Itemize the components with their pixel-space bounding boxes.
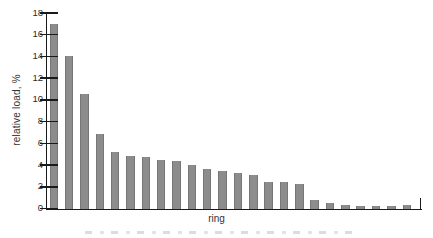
bar	[264, 182, 273, 208]
y-axis-title: relative load, %	[11, 74, 22, 146]
bar	[372, 206, 381, 209]
x-axis-title: ring	[0, 213, 433, 224]
x-axis-end-cap	[420, 198, 422, 209]
bar	[111, 152, 120, 208]
bar	[387, 206, 396, 209]
bar	[65, 56, 74, 208]
figure-canvas: relative load, % 024681012141618 ring	[0, 0, 433, 238]
bar	[280, 182, 289, 208]
y-axis-tick	[40, 12, 58, 14]
x-axis-line	[46, 209, 422, 211]
bar	[341, 205, 350, 209]
y-axis-tick	[40, 34, 58, 36]
y-axis-tick	[40, 121, 58, 123]
bar	[142, 157, 151, 208]
bar	[188, 165, 197, 208]
bar	[126, 156, 135, 208]
bar	[157, 160, 166, 209]
bar	[96, 134, 105, 209]
chart-area	[47, 13, 421, 209]
y-axis-tick	[40, 56, 58, 58]
y-axis-line	[46, 13, 48, 210]
bar	[295, 184, 304, 209]
bar	[50, 24, 59, 209]
bar	[326, 203, 335, 209]
y-axis-tick	[40, 186, 58, 188]
y-axis-tick	[40, 164, 58, 166]
bar	[218, 171, 227, 209]
y-axis-tick	[40, 143, 58, 145]
bar	[310, 200, 319, 209]
cropped-caption-remnant	[85, 231, 355, 234]
bar	[356, 206, 365, 209]
bar	[249, 175, 258, 209]
y-axis-tick	[40, 77, 58, 79]
bar	[172, 161, 181, 209]
y-axis-tick	[40, 208, 58, 210]
bar	[203, 169, 212, 208]
y-axis-tick	[40, 99, 58, 101]
bar	[234, 173, 243, 209]
bar	[403, 205, 412, 208]
bar	[80, 94, 89, 208]
